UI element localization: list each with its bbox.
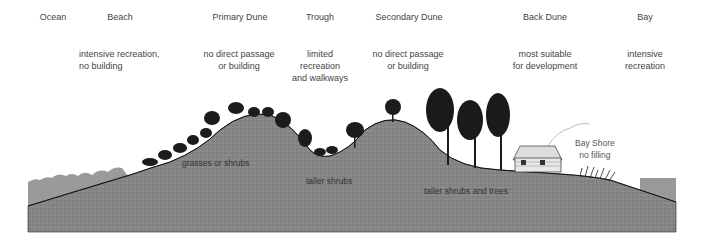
ground-label-trough: taller shrubs — [306, 176, 352, 186]
zone-title-secondary-dune: Secondary Dune — [375, 12, 442, 22]
zone-title-ocean: Ocean — [40, 12, 67, 22]
zone-title-bay: Bay — [637, 12, 653, 22]
ground-label-secondary-dune: taller shrubs and trees — [424, 186, 508, 196]
zone-note-bay: intensive recreation — [625, 48, 665, 72]
zone-note-back-dune: most suitable for development — [513, 48, 578, 72]
dune-cross-section — [0, 0, 702, 242]
zone-title-trough: Trough — [306, 12, 334, 22]
zone-title-beach: Beach — [107, 12, 133, 22]
zone-note-beach: intensive recreation, no building — [79, 48, 160, 72]
bay-shore-label: Bay Shore no filling — [575, 137, 615, 161]
zone-note-secondary-dune: no direct passage or building — [372, 48, 443, 72]
zone-note-trough: limited recreation and walkways — [292, 48, 348, 84]
zone-title-primary-dune: Primary Dune — [212, 12, 267, 22]
zone-title-back-dune: Back Dune — [523, 12, 567, 22]
zone-note-primary-dune: no direct passage or building — [203, 48, 274, 72]
ground-label-primary-dune: grasses or shrubs — [182, 158, 250, 168]
